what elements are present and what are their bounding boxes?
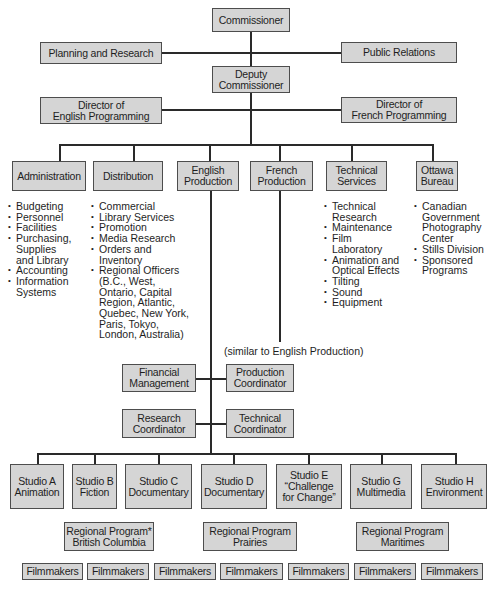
- list-item: Information Systems: [8, 276, 88, 297]
- studio-a-box: Studio A Animation: [10, 464, 64, 509]
- deputy-commissioner-box: Deputy Commissioner: [212, 66, 290, 93]
- french-production-note: (similar to English Production): [224, 345, 363, 357]
- public-relations-box: Public Relations: [341, 42, 457, 63]
- list-item: Regional Officers (B.C., West, Ontario, …: [91, 265, 201, 340]
- distribution-box: Distribution: [93, 161, 163, 191]
- connector-line: [162, 109, 341, 111]
- connector-line: [210, 191, 212, 454]
- studio-d-box: Studio D Documentary: [201, 464, 267, 509]
- connector-line: [162, 52, 341, 54]
- filmmakers-box: Filmmakers: [220, 563, 283, 580]
- technical-services-list: Technical Research Maintenance Film Labo…: [324, 201, 414, 308]
- technical-services-box: Technical Services: [326, 161, 387, 191]
- connector-line: [37, 453, 457, 455]
- list-item: Stills Division: [414, 244, 497, 255]
- connector-line: [351, 144, 353, 161]
- list-item: Orders and Inventory: [91, 244, 201, 265]
- distribution-list: Commercial Library Services Promotion Me…: [91, 201, 201, 340]
- studio-h-box: Studio H Environment: [421, 464, 487, 509]
- list-item: Technical Research: [324, 201, 414, 222]
- connector-line: [308, 453, 310, 464]
- production-coordinator-box: Production Coordinator: [226, 364, 294, 392]
- commissioner-box: Commissioner: [212, 8, 290, 32]
- filmmakers-box: Filmmakers: [421, 563, 483, 580]
- connector-line: [37, 453, 39, 464]
- connector-line: [94, 453, 96, 464]
- connector-line: [381, 453, 383, 464]
- director-french-box: Director of French Programming: [341, 97, 457, 123]
- financial-management-box: Financial Management: [122, 364, 196, 392]
- connector-line: [59, 144, 433, 146]
- connector-line: [279, 144, 281, 161]
- english-production-box: English Production: [177, 161, 239, 191]
- connector-line: [196, 378, 226, 380]
- connector-line: [432, 144, 434, 161]
- regional-bc-box: Regional Program* British Columbia: [64, 522, 154, 551]
- filmmakers-box: Filmmakers: [22, 563, 83, 580]
- research-coordinator-box: Research Coordinator: [122, 409, 196, 438]
- connector-line: [158, 453, 160, 464]
- regional-prairies-box: Regional Program Prairies: [203, 522, 297, 551]
- french-production-box: French Production: [250, 161, 313, 191]
- planning-research-box: Planning and Research: [40, 42, 162, 64]
- list-item: Sponsored Programs: [414, 255, 497, 276]
- administration-list: Budgeting Personnel Facilities Purchasin…: [8, 201, 88, 297]
- studio-b-box: Studio B Fiction: [72, 464, 117, 509]
- list-item: Animation and Optical Effects: [324, 255, 414, 276]
- connector-line: [133, 144, 135, 161]
- studio-e-box: Studio E “Challenge for Change”: [276, 464, 342, 509]
- connector-line: [209, 144, 211, 161]
- studio-c-box: Studio C Documentary: [125, 464, 192, 509]
- filmmakers-box: Filmmakers: [154, 563, 216, 580]
- list-item: Purchasing, Supplies and Library: [8, 233, 88, 265]
- list-item: Canadian Government Photography Center: [414, 201, 497, 244]
- connector-line: [250, 93, 252, 145]
- studio-g-box: Studio G Multimedia: [350, 464, 412, 509]
- director-english-box: Director of English Programming: [40, 97, 162, 124]
- filmmakers-box: Filmmakers: [87, 563, 149, 580]
- ottawa-bureau-list: Canadian Government Photography Center S…: [414, 201, 497, 276]
- ottawa-bureau-box: Ottawa Bureau: [416, 161, 458, 191]
- connector-line: [233, 453, 235, 464]
- filmmakers-box: Filmmakers: [354, 563, 416, 580]
- connector-line: [196, 423, 226, 425]
- regional-maritimes-box: Regional Program Maritimes: [356, 522, 449, 551]
- list-item: Equipment: [324, 297, 414, 308]
- connector-line: [455, 453, 457, 464]
- list-item: Film Laboratory: [324, 233, 414, 254]
- connector-line: [250, 32, 252, 66]
- technical-coordinator-box: Technical Coordinator: [226, 409, 294, 438]
- administration-box: Administration: [12, 161, 86, 191]
- connector-line: [59, 144, 61, 161]
- filmmakers-box: Filmmakers: [288, 563, 349, 580]
- connector-line: [279, 191, 281, 342]
